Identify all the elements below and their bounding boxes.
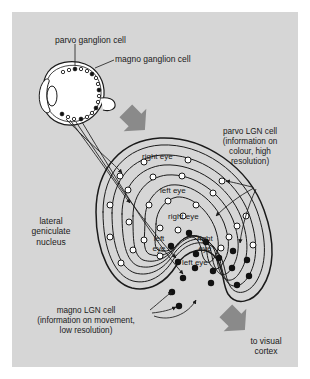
lgn-parvo-cell — [117, 173, 123, 179]
lgn-parvo-cell — [210, 190, 216, 196]
retina-magno-cell — [60, 112, 64, 116]
lgn-parvo-cell — [185, 157, 191, 163]
retina-parvo-cell — [96, 82, 99, 85]
label-layer-4-left-eye-line2: eye — [148, 244, 170, 254]
arrow-lgn-to-cortex — [214, 299, 256, 341]
lgn-parvo-cell — [165, 198, 171, 204]
lgn-parvo-cell — [141, 237, 147, 243]
leader-magno-label-2 — [152, 307, 176, 313]
retina-parvo-cell — [67, 68, 70, 71]
retina-magno-cell — [73, 67, 77, 71]
lgn-parvo-cell — [125, 187, 131, 193]
retina-magno-cell — [90, 72, 94, 76]
retina-parvo-cell — [79, 67, 82, 70]
lgn-magno-cell — [216, 255, 222, 261]
lgn-parvo-cell — [179, 173, 185, 179]
retina-parvo-cell — [85, 115, 88, 118]
retina-parvo-cell — [72, 117, 75, 120]
retina-parvo-cell — [96, 100, 99, 103]
lgn-parvo-cell — [250, 242, 256, 248]
lgn-parvo-cell — [175, 227, 181, 233]
leader-retina-to-layer1 — [66, 119, 122, 173]
retina-parvo-cell — [97, 94, 100, 97]
label-magno-lgn-cell: magno LGN cell (information on movement,… — [18, 306, 154, 336]
lgn-magno-cell — [208, 280, 214, 286]
retina-parvo-cell — [66, 115, 69, 118]
lgn-magno-cell — [230, 248, 236, 254]
label-parvo-ganglion-cell: parvo ganglion cell — [55, 35, 126, 45]
lgn-parvo-cell — [150, 174, 156, 180]
retina-magno-cell — [94, 106, 98, 110]
leader-magno-ganglion — [95, 60, 114, 68]
label-layer-3-right-eye: right eye — [168, 212, 199, 222]
label-layer-5-right-eye: right — [192, 234, 218, 244]
retina-parvo-cell — [90, 111, 93, 114]
leader-retina-to-layer2 — [70, 120, 130, 203]
lgn-magno-cell — [175, 259, 181, 265]
label-layer-5-right-eye-line2: eye — [192, 244, 218, 254]
label-to-visual-cortex: to visual cortex — [236, 336, 296, 357]
lgn-parvo-cell — [218, 245, 224, 251]
label-layer-2-left-eye: left eye — [160, 186, 186, 196]
retina-parvo-cell — [94, 76, 97, 79]
lgn-parvo-cell — [226, 234, 232, 240]
lgn-parvo-cell — [234, 223, 240, 229]
lgn-parvo-cell — [118, 260, 124, 266]
lgn-magno-cell — [229, 265, 235, 271]
lgn-parvo-cell — [157, 225, 163, 231]
label-magno-ganglion-cell: magno ganglion cell — [115, 54, 191, 64]
label-layer-4-left-eye: left — [148, 234, 170, 244]
lgn-parvo-cell — [107, 202, 113, 208]
retina-parvo-cell — [61, 70, 64, 73]
lgn-magno-cell — [180, 275, 186, 281]
lgn-parvo-cell — [193, 202, 199, 208]
label-lateral-geniculate-nucleus: lateral geniculate nucleus — [18, 216, 84, 247]
label-layer-6-left-eye: left eye — [182, 258, 208, 268]
eye-diagram — [39, 44, 115, 125]
retina-magno-cell — [97, 88, 101, 92]
lgn-magno-cell — [210, 268, 216, 274]
lens — [47, 86, 57, 106]
label-layer-1-right-eye: right eye — [142, 152, 173, 162]
retina-parvo-cell — [85, 69, 88, 72]
lgn-parvo-cell — [146, 202, 152, 208]
lgn-parvo-cell — [130, 247, 136, 253]
leader-magno-label-3 — [154, 300, 196, 318]
optic-nerve — [101, 98, 115, 111]
lgn-parvo-cell — [107, 234, 113, 240]
retina-magno-cell — [79, 117, 83, 121]
lgn-magno-cell — [234, 282, 240, 288]
lgn-magno-cell — [176, 303, 182, 309]
diagram-figure: parvo ganglion cell magno ganglion cell … — [0, 0, 310, 379]
lgn-parvo-cell — [157, 253, 163, 259]
lgn-magno-cell — [246, 273, 252, 279]
lgn-parvo-cell — [126, 219, 132, 225]
lgn-magno-cell — [244, 257, 250, 263]
lgn-parvo-cell — [219, 178, 225, 184]
arrow-eye-to-lgn — [114, 99, 156, 141]
label-parvo-lgn-cell: parvo LGN cell (information on colour, h… — [196, 127, 304, 167]
